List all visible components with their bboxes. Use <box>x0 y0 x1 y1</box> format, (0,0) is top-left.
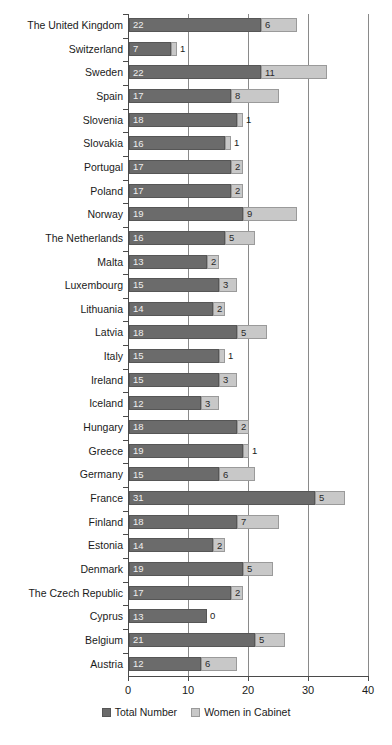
bar-segment-women-in-cabinet[interactable]: 2 <box>213 302 225 316</box>
bar-row[interactable]: Switzerland71 <box>0 38 392 61</box>
bar-row[interactable]: Austria126 <box>0 653 392 676</box>
bar-segment-women-in-cabinet[interactable] <box>225 136 231 150</box>
bar-row[interactable]: Malta132 <box>0 251 392 274</box>
stacked-bar[interactable]: 19 <box>129 444 249 458</box>
bar-segment-women-in-cabinet[interactable]: 5 <box>225 231 255 245</box>
bar-segment-women-in-cabinet[interactable] <box>237 113 243 127</box>
bar-row[interactable]: Norway199 <box>0 203 392 226</box>
bar-segment-women-in-cabinet[interactable]: 2 <box>231 160 243 174</box>
bar-row[interactable]: Lithuania142 <box>0 298 392 321</box>
stacked-bar[interactable]: 182 <box>129 420 249 434</box>
stacked-bar[interactable]: 126 <box>129 657 237 671</box>
bar-segment-total-number[interactable]: 18 <box>129 113 237 127</box>
stacked-bar[interactable]: 153 <box>129 278 237 292</box>
bar-segment-women-in-cabinet[interactable]: 5 <box>315 491 345 505</box>
stacked-bar[interactable]: 172 <box>129 160 243 174</box>
stacked-bar[interactable]: 2211 <box>129 65 327 79</box>
bar-row[interactable]: Estonia142 <box>0 534 392 557</box>
stacked-bar[interactable]: 215 <box>129 633 285 647</box>
bar-row[interactable]: Portugal172 <box>0 156 392 179</box>
bar-segment-total-number[interactable]: 18 <box>129 325 237 339</box>
bar-segment-total-number[interactable]: 17 <box>129 184 231 198</box>
bar-segment-total-number[interactable]: 15 <box>129 373 219 387</box>
stacked-bar[interactable]: 18 <box>129 113 243 127</box>
bar-segment-women-in-cabinet[interactable]: 2 <box>231 184 243 198</box>
bar-segment-total-number[interactable]: 19 <box>129 444 243 458</box>
stacked-bar[interactable]: 178 <box>129 89 279 103</box>
bar-segment-total-number[interactable]: 22 <box>129 65 261 79</box>
stacked-bar[interactable]: 142 <box>129 302 225 316</box>
bar-row[interactable]: Spain178 <box>0 85 392 108</box>
bar-segment-women-in-cabinet[interactable]: 2 <box>231 586 243 600</box>
bar-segment-total-number[interactable]: 14 <box>129 538 213 552</box>
bar-segment-total-number[interactable]: 19 <box>129 562 243 576</box>
bar-segment-total-number[interactable]: 15 <box>129 349 219 363</box>
bar-row[interactable]: Poland172 <box>0 180 392 203</box>
bar-segment-total-number[interactable]: 15 <box>129 278 219 292</box>
stacked-bar[interactable]: 195 <box>129 562 273 576</box>
bar-row[interactable]: Greece191 <box>0 440 392 463</box>
stacked-bar[interactable]: 153 <box>129 373 237 387</box>
bar-segment-women-in-cabinet[interactable]: 5 <box>237 325 267 339</box>
bar-segment-total-number[interactable]: 13 <box>129 255 207 269</box>
bar-row[interactable]: Denmark195 <box>0 558 392 581</box>
bar-row[interactable]: The Netherlands165 <box>0 227 392 250</box>
bar-segment-total-number[interactable]: 19 <box>129 207 243 221</box>
bar-segment-total-number[interactable]: 17 <box>129 586 231 600</box>
bar-row[interactable]: France315 <box>0 487 392 510</box>
bar-row[interactable]: Germany156 <box>0 463 392 486</box>
bar-segment-total-number[interactable]: 17 <box>129 89 231 103</box>
bar-segment-total-number[interactable]: 18 <box>129 420 237 434</box>
stacked-bar[interactable]: 226 <box>129 18 297 32</box>
bar-segment-women-in-cabinet[interactable]: 11 <box>261 65 327 79</box>
bar-row[interactable]: Iceland123 <box>0 392 392 415</box>
bar-segment-women-in-cabinet[interactable]: 2 <box>207 255 219 269</box>
stacked-bar[interactable]: 185 <box>129 325 267 339</box>
stacked-bar[interactable]: 315 <box>129 491 345 505</box>
bar-segment-women-in-cabinet[interactable]: 2 <box>213 538 225 552</box>
bar-row[interactable]: Sweden2211 <box>0 61 392 84</box>
bar-segment-total-number[interactable]: 12 <box>129 396 201 410</box>
bar-segment-women-in-cabinet[interactable]: 5 <box>243 562 273 576</box>
legend-item-women[interactable]: Women in Cabinet <box>191 706 290 718</box>
bar-segment-total-number[interactable]: 31 <box>129 491 315 505</box>
bar-segment-women-in-cabinet[interactable]: 3 <box>201 396 219 410</box>
bar-segment-women-in-cabinet[interactable]: 6 <box>201 657 237 671</box>
bar-row[interactable]: Luxembourg153 <box>0 274 392 297</box>
bar-segment-women-in-cabinet[interactable]: 3 <box>219 373 237 387</box>
bar-segment-women-in-cabinet[interactable]: 7 <box>237 515 279 529</box>
bar-segment-total-number[interactable]: 7 <box>129 42 171 56</box>
stacked-bar[interactable]: 123 <box>129 396 219 410</box>
bar-segment-women-in-cabinet[interactable]: 6 <box>219 467 255 481</box>
bar-row[interactable]: Ireland153 <box>0 369 392 392</box>
bar-segment-total-number[interactable]: 16 <box>129 231 225 245</box>
bar-segment-women-in-cabinet[interactable]: 8 <box>231 89 279 103</box>
stacked-bar[interactable]: 172 <box>129 586 243 600</box>
bar-row[interactable]: The United Kingdom226 <box>0 14 392 37</box>
bar-segment-women-in-cabinet[interactable]: 9 <box>243 207 297 221</box>
bar-segment-total-number[interactable]: 14 <box>129 302 213 316</box>
bar-segment-total-number[interactable]: 17 <box>129 160 231 174</box>
bar-row[interactable]: Slovakia161 <box>0 132 392 155</box>
stacked-bar[interactable]: 132 <box>129 255 219 269</box>
stacked-bar[interactable]: 15 <box>129 349 225 363</box>
bar-segment-total-number[interactable]: 15 <box>129 467 219 481</box>
bar-row[interactable]: Cyprus130 <box>0 605 392 628</box>
stacked-bar[interactable]: 156 <box>129 467 255 481</box>
stacked-bar[interactable]: 199 <box>129 207 297 221</box>
bar-segment-total-number[interactable]: 13 <box>129 609 207 623</box>
bar-segment-women-in-cabinet[interactable] <box>243 444 249 458</box>
bar-segment-women-in-cabinet[interactable] <box>219 349 225 363</box>
bar-segment-women-in-cabinet[interactable]: 3 <box>219 278 237 292</box>
bar-segment-total-number[interactable]: 18 <box>129 515 237 529</box>
bar-segment-women-in-cabinet[interactable] <box>171 42 177 56</box>
bar-row[interactable]: Latvia185 <box>0 321 392 344</box>
stacked-bar[interactable]: 13 <box>129 609 207 623</box>
stacked-bar[interactable]: 165 <box>129 231 255 245</box>
bar-row[interactable]: Hungary182 <box>0 416 392 439</box>
bar-segment-total-number[interactable]: 22 <box>129 18 261 32</box>
stacked-bar[interactable]: 7 <box>129 42 177 56</box>
bar-segment-women-in-cabinet[interactable]: 6 <box>261 18 297 32</box>
bar-row[interactable]: Belgium215 <box>0 629 392 652</box>
bar-row[interactable]: Italy151 <box>0 345 392 368</box>
